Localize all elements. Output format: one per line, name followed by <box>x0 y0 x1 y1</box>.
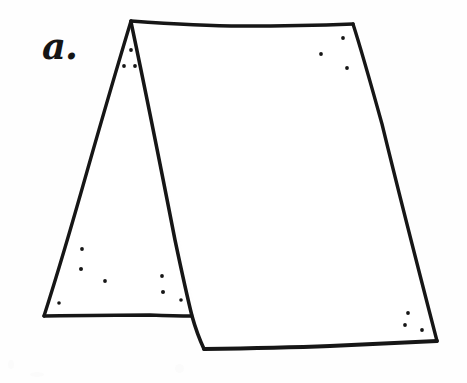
figure-page: a. <box>0 0 467 383</box>
dot-apex-2 <box>122 64 126 68</box>
dot-topright-2 <box>319 52 323 56</box>
figure-label-text: a. <box>42 24 77 68</box>
dot-topright-1 <box>341 36 345 40</box>
dot-lowleft-4 <box>57 301 61 305</box>
dot-apex-3 <box>133 64 137 68</box>
dot-lowleft-3 <box>103 279 107 283</box>
dot-lowleft-1 <box>80 247 84 251</box>
dot-botright-2 <box>403 323 407 327</box>
dot-botright-1 <box>406 311 410 315</box>
tent-panels <box>44 21 437 349</box>
dot-lowmid-1 <box>160 274 164 278</box>
figure-label: a. <box>42 28 102 80</box>
dot-lowleft-2 <box>79 267 83 271</box>
dot-apex-1 <box>129 48 133 52</box>
dot-lowmid-2 <box>161 290 165 294</box>
dot-botright-3 <box>420 328 424 332</box>
dot-topright-3 <box>345 66 349 70</box>
dot-lowmid-3 <box>179 298 183 302</box>
side-panel-base-edge <box>44 315 192 316</box>
